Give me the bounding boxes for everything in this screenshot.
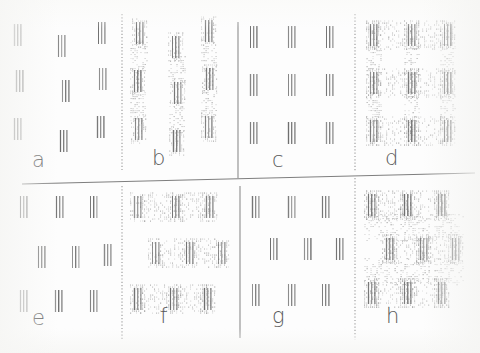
connector-dot [372,219,373,220]
connector-dot [451,218,452,219]
connector-dot [413,240,414,241]
connector-dot [386,25,387,26]
connector-dot [367,118,368,119]
connector-dot [183,137,184,138]
connector-dot [184,205,185,206]
connector-dot [178,122,179,123]
connector-dot [372,23,373,24]
connector-dot [166,197,167,198]
connector-dot [190,301,191,302]
connector-dot [436,239,437,240]
connector-dot [135,106,136,107]
connector-dot [174,253,175,254]
connector-dot [400,87,401,88]
connector-dot [391,276,392,277]
connector-dot [446,211,447,212]
connector-dot [442,239,443,240]
connector-dot [200,295,201,296]
connector-dot [396,293,397,294]
connector-dot [131,50,132,51]
connector-dot [216,93,217,94]
connector-dot [410,23,411,24]
connector-dot [402,213,403,214]
connector-dot [414,209,415,210]
connector-dot [392,261,393,262]
connector-dot [208,253,209,254]
connector-dot [405,58,406,59]
connector-dot [440,123,441,124]
connector-dot [423,278,424,279]
connector-dot [384,289,385,290]
connector-dot [388,39,389,40]
connector-dot [382,137,383,138]
connector-dot [136,45,137,46]
connector-dot [188,259,189,260]
connector-dot [446,293,447,294]
connector-dot [176,285,177,286]
connector-dot [409,48,410,49]
connector-dot [393,234,394,235]
connector-dot [212,106,213,107]
connector-dot [420,197,421,198]
connector-dot [390,201,391,202]
connector-dot [180,239,181,240]
connector-dot [386,79,387,80]
connector-dot [416,259,417,260]
connector-dot [378,211,379,212]
connector-dot [416,295,417,296]
connector-dot [456,263,457,264]
connector-dot [376,283,377,284]
connector-dot [426,219,427,220]
connector-dot [160,261,161,262]
connector-dot [428,35,429,36]
connector-dot [386,201,387,202]
connector-dot [171,133,172,134]
connector-dot [380,191,381,192]
connector-dot [410,21,411,22]
connector-dot [405,110,406,111]
connector-dot [137,104,138,105]
panel-g-elements [253,196,343,306]
connector-dot [410,237,411,238]
connector-dot [440,213,441,214]
connector-dot [214,201,215,202]
connector-dot [400,291,401,292]
connector-dot [380,201,381,202]
connector-dot [170,311,171,312]
connector-dot [434,195,435,196]
connector-dot [400,195,401,196]
connector-dot [402,205,403,206]
connector-dot [461,276,462,277]
connector-dot [204,81,205,82]
connector-dot [202,110,203,111]
connector-dot [174,241,175,242]
connector-dot [409,216,410,217]
connector-dot [162,293,163,294]
connector-dot [440,299,441,300]
connector-dot [154,301,155,302]
connector-dot [416,37,417,38]
connector-dot [436,211,437,212]
connector-dot [417,98,418,99]
connector-dot [378,97,379,98]
connector-dot [445,100,446,101]
connector-dot [412,251,413,252]
connector-dot [415,238,416,239]
connector-dot [453,282,454,283]
connector-dot [411,58,412,59]
connector-dot [440,97,441,98]
connector-dot [456,237,457,238]
connector-dot [162,205,163,206]
connector-dot [200,215,201,216]
connector-dot [418,47,419,48]
connector-dot [366,197,367,198]
connector-dot [364,293,365,294]
connector-dot [384,251,385,252]
connector-dot [140,287,141,288]
connector-dot [206,289,207,290]
connector-dot [168,37,169,38]
connector-dot [376,69,377,70]
connector-dot [403,226,404,227]
connector-dot [444,69,445,70]
connector-dot [366,91,367,92]
